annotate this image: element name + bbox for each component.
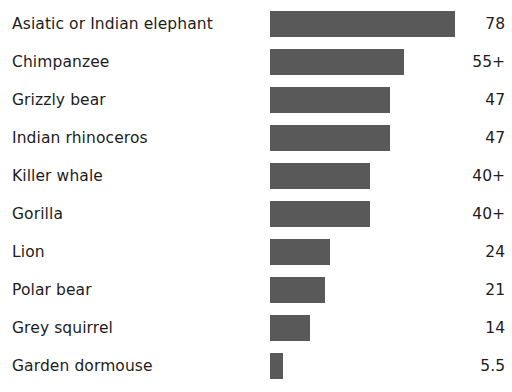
bar-track [270,347,460,385]
bar-track [270,5,460,43]
bar [270,87,390,113]
row-value: 78 [485,5,505,43]
row-value: 47 [485,119,505,157]
row-label: Grey squirrel [12,309,113,347]
bar-track [270,233,460,271]
chart-row: Indian rhinoceros47 [0,119,512,157]
row-value: 5.5 [480,347,505,385]
row-label: Chimpanzee [12,43,109,81]
row-value: 24 [485,233,505,271]
bar-track [270,195,460,233]
row-label: Gorilla [12,195,63,233]
bar [270,11,455,37]
bar [270,239,330,265]
row-value: 55+ [472,43,505,81]
bar [270,315,310,341]
bar-chart: Asiatic or Indian elephant78Chimpanzee55… [0,0,512,392]
chart-title [12,0,492,4]
bar [270,125,390,151]
bar-track [270,81,460,119]
row-label: Killer whale [12,157,103,195]
row-label: Asiatic or Indian elephant [12,5,213,43]
bar-track [270,309,460,347]
bar [270,277,325,303]
row-label: Polar bear [12,271,92,309]
bar [270,353,283,379]
row-label: Grizzly bear [12,81,106,119]
chart-row: Polar bear21 [0,271,512,309]
bar-track [270,157,460,195]
chart-row: Chimpanzee55+ [0,43,512,81]
row-value: 40+ [472,157,505,195]
bar-track [270,43,460,81]
row-value: 21 [485,271,505,309]
row-label: Garden dormouse [12,347,153,385]
row-value: 47 [485,81,505,119]
row-value: 40+ [472,195,505,233]
chart-row: Grizzly bear47 [0,81,512,119]
row-value: 14 [485,309,505,347]
chart-row: Garden dormouse5.5 [0,347,512,385]
chart-rows: Asiatic or Indian elephant78Chimpanzee55… [0,5,512,385]
bar-track [270,119,460,157]
bar [270,201,370,227]
chart-row: Grey squirrel14 [0,309,512,347]
chart-row: Killer whale40+ [0,157,512,195]
chart-row: Asiatic or Indian elephant78 [0,5,512,43]
chart-row: Gorilla40+ [0,195,512,233]
row-label: Indian rhinoceros [12,119,148,157]
bar [270,49,404,75]
bar-track [270,271,460,309]
chart-row: Lion24 [0,233,512,271]
row-label: Lion [12,233,45,271]
bar [270,163,370,189]
